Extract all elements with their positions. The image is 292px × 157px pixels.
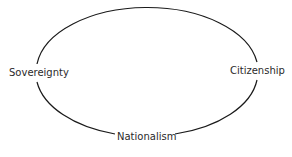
ellipse-arc-right-lower [175, 80, 257, 134]
cycle-diagram: Sovereignty Citizenship Nationalism [0, 0, 292, 157]
node-label-nationalism: Nationalism [117, 131, 176, 142]
ellipse-arc-left-lower [37, 82, 115, 134]
node-label-citizenship: Citizenship [230, 65, 285, 76]
ellipse-arc-top [37, 8, 257, 64]
node-label-sovereignty: Sovereignty [9, 67, 69, 78]
